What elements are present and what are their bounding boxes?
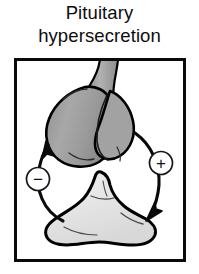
minus-sign-label: − [33,170,43,189]
target-gland-illustration [46,172,156,245]
pituitary-gland-illustration [46,61,134,167]
figure-title-line-2: hypersecretion [0,24,199,47]
target-gland-body [46,172,156,245]
pituitary-hypersecretion-figure: Pituitary hypersecretion [0,0,199,274]
figure-title-line-1: Pituitary [0,1,199,24]
feedback-loop-diagram: − + [17,61,183,259]
stimulatory-arrow: + [135,133,173,221]
stimulatory-arrow-head [146,202,162,221]
figure-title: Pituitary hypersecretion [0,1,199,47]
plus-sign-label: + [156,154,166,173]
diagram-panel: − + [14,58,186,262]
